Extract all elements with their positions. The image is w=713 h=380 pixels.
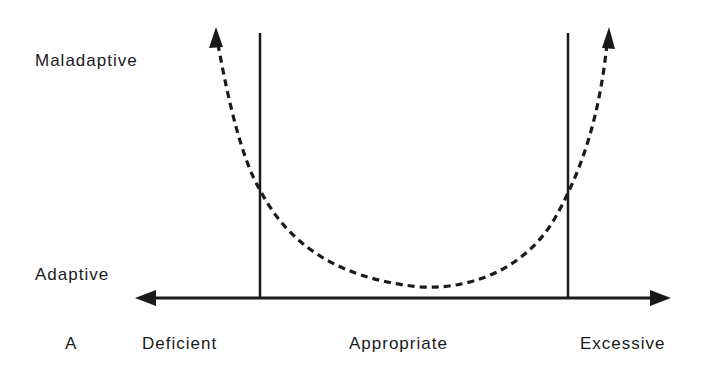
dashed-u-curve — [209, 27, 615, 287]
axis-left-arrowhead-icon — [135, 290, 156, 306]
y-label-adaptive: Adaptive — [35, 266, 109, 283]
panel-label: A — [65, 335, 77, 352]
curve-left-arrowhead-icon — [209, 27, 223, 48]
x-label-appropriate: Appropriate — [349, 335, 448, 352]
x-label-excessive: Excessive — [580, 335, 666, 352]
horizontal-axis — [135, 290, 671, 306]
curve-right-arrowhead-icon — [602, 27, 615, 49]
y-label-maladaptive: Maladaptive — [35, 52, 138, 69]
x-label-deficient: Deficient — [142, 335, 217, 352]
axis-right-arrowhead-icon — [650, 290, 671, 306]
